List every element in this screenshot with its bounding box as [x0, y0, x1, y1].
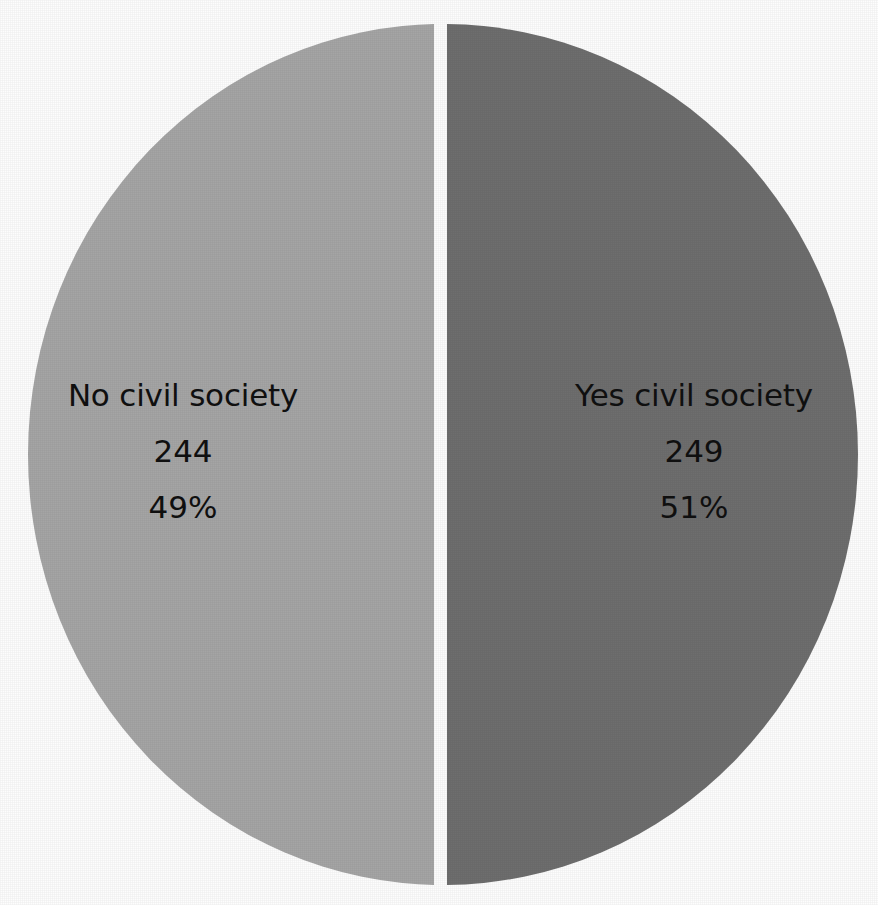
pie-label-yes-civil-society: Yes civil society 249 51%	[549, 380, 839, 523]
pie-label-count-right: 249	[549, 436, 839, 467]
pie-chart-figure: No civil society 244 49% Yes civil socie…	[0, 0, 878, 905]
pie-label-percent-right: 51%	[549, 492, 839, 523]
pie-label-count-left: 244	[38, 436, 328, 467]
pie-label-percent-left: 49%	[38, 492, 328, 523]
pie-label-name-right: Yes civil society	[549, 380, 839, 411]
pie-slice-separator	[434, 20, 447, 890]
pie-label-no-civil-society: No civil society 244 49%	[38, 380, 328, 523]
pie-label-name-left: No civil society	[38, 380, 328, 411]
